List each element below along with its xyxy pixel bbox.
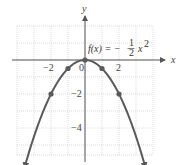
function-label: f(x) = − 1 2 x 2 bbox=[88, 37, 149, 58]
data-point bbox=[99, 66, 104, 71]
x-tick-label-neg2: −2 bbox=[43, 62, 54, 73]
function-lhs: f(x) = − bbox=[88, 43, 120, 55]
data-point bbox=[65, 66, 70, 71]
y-tick-label-neg2: −2 bbox=[71, 88, 82, 99]
origin-label: 0 bbox=[79, 62, 84, 73]
function-variable: x bbox=[137, 43, 143, 54]
function-exponent: 2 bbox=[144, 38, 149, 49]
y-axis-label: y bbox=[81, 3, 87, 14]
fraction-denominator: 2 bbox=[129, 47, 134, 58]
y-tick-label-neg4: −4 bbox=[71, 122, 82, 133]
x-tick-label-2: 2 bbox=[116, 62, 121, 73]
parabola-chart: x y −2 0 2 −2 −4 f(x) = − 1 2 x 2 bbox=[0, 0, 183, 165]
x-axis-label: x bbox=[170, 54, 176, 65]
data-point bbox=[116, 91, 121, 96]
data-point bbox=[82, 57, 87, 62]
data-point bbox=[48, 91, 53, 96]
